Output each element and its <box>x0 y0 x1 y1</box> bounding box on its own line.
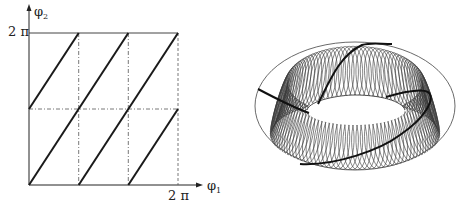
torus-meridian-ring <box>359 46 382 102</box>
torus-meridian-ring <box>299 108 325 165</box>
torus-meridian-ring <box>333 46 355 102</box>
torus-meridian-ring <box>392 54 419 111</box>
torus-meridian-ring <box>307 110 333 167</box>
torus-meridian-ring <box>392 105 419 162</box>
torus-meridian-ring <box>292 54 319 111</box>
x-axis-arrow-icon <box>196 183 203 188</box>
torus-meridian-ring <box>343 46 363 101</box>
y-tick-2pi: 2 π <box>8 25 29 38</box>
torus-meridian-ring <box>381 109 407 166</box>
y-axis-subscript: 2 <box>43 12 48 21</box>
torus-meridian-ring <box>355 46 377 102</box>
y-axis-label: φ2 <box>34 5 48 21</box>
torus-meridian-ring <box>359 113 382 169</box>
torus-meridian-ring <box>292 105 319 162</box>
x-axis-subscript: 1 <box>216 186 221 195</box>
figure-canvas <box>0 0 463 203</box>
y-axis-arrow-icon <box>27 4 32 11</box>
torus-meridian-ring <box>303 109 329 166</box>
torus-meridian-ring <box>378 110 404 167</box>
y-axis-symbol: φ <box>34 4 43 19</box>
phase-square-diagram <box>27 4 204 188</box>
x-axis-symbol: φ <box>207 178 216 193</box>
x-axis-label: φ1 <box>207 179 221 195</box>
torus-meridian-ring <box>363 113 387 170</box>
torus-diagram <box>255 42 455 170</box>
x-tick-2pi: 2 π <box>168 189 189 202</box>
